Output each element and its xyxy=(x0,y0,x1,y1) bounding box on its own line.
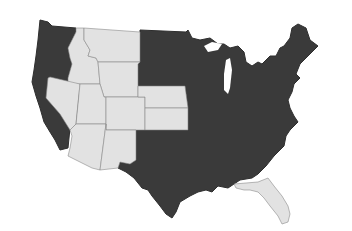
state-montana xyxy=(84,28,140,62)
state-new-mexico xyxy=(100,124,136,170)
state-nebraska xyxy=(138,86,188,108)
state-arizona xyxy=(68,124,106,170)
us-map-svg xyxy=(0,0,352,231)
state-kansas xyxy=(145,108,188,130)
state-wyoming xyxy=(98,62,140,97)
state-florida xyxy=(234,178,290,224)
us-map xyxy=(0,0,352,231)
state-utah xyxy=(76,84,106,124)
state-colorado xyxy=(106,97,145,130)
